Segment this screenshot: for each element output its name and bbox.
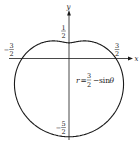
- svg-text:−: −: [4, 46, 9, 54]
- tick-label-right: 3 2: [115, 42, 120, 58]
- svg-text:2: 2: [115, 50, 119, 58]
- svg-text:−: −: [56, 124, 61, 132]
- polar-graph-figure: x y 1 2 − 3 2 3 2 − 5: [0, 0, 140, 143]
- svg-text:3: 3: [87, 72, 91, 80]
- x-axis-label: x: [135, 55, 139, 63]
- svg-text:θ: θ: [110, 76, 115, 85]
- y-axis-label: y: [66, 3, 72, 11]
- svg-text:2: 2: [87, 81, 91, 89]
- tick-label-top: 1 2: [61, 24, 66, 40]
- svg-text:=: =: [81, 76, 87, 85]
- svg-text:r: r: [76, 76, 80, 85]
- svg-text:2: 2: [9, 50, 13, 58]
- svg-text:5: 5: [61, 120, 65, 128]
- equation-label: r = 3 2 − sin θ: [76, 72, 115, 88]
- svg-text:1: 1: [61, 24, 65, 32]
- x-axis-arrow-icon: [128, 57, 133, 61]
- svg-text:3: 3: [115, 42, 119, 50]
- svg-text:2: 2: [61, 128, 65, 136]
- tick-label-bottom: − 5 2: [56, 120, 66, 136]
- svg-text:3: 3: [9, 42, 13, 50]
- svg-text:2: 2: [61, 32, 65, 40]
- tick-label-left: − 3 2: [4, 42, 14, 58]
